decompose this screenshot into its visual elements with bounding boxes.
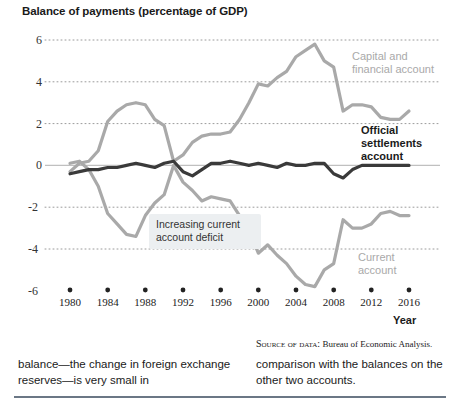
series-label-line: financial account <box>352 63 434 76</box>
x-tick-dot <box>331 288 336 293</box>
x-tick-dot <box>68 288 73 293</box>
plot-area: 6 4 2 0 -2 -4 -6 <box>0 24 460 314</box>
series-label-line: Capital and <box>352 50 434 63</box>
x-tick-dot <box>218 288 223 293</box>
x-tick-dot <box>143 288 148 293</box>
series-label-line: account <box>361 150 422 163</box>
series-label-line: account <box>358 264 397 277</box>
source-text: Bureau of Economic Analysis. <box>322 339 432 349</box>
annotation-increasing-current-account-deficit: Increasing current account deficit <box>149 214 261 249</box>
series-label-line: Official <box>361 124 422 137</box>
x-axis-title: Year <box>393 314 416 326</box>
footer-left-column: balance—the change in foreign exchange r… <box>18 356 233 388</box>
balance-of-payments-figure: Balance of payments (percentage of GDP) … <box>0 0 460 404</box>
series-label-line: Current <box>358 251 397 264</box>
footer-divider-rule <box>14 396 446 398</box>
source-prefix: Source of data: <box>256 338 320 349</box>
x-tick-dot <box>181 288 186 293</box>
x-tick-dot <box>105 288 110 293</box>
series-label-capital-and-financial-account: Capital and financial account <box>352 50 434 76</box>
x-axis-ticks <box>68 288 412 293</box>
x-tick-dot <box>407 288 412 293</box>
source-of-data-note: Source of data: Bureau of Economic Analy… <box>256 338 432 349</box>
series-label-official-settlements-account: Official settlements account <box>361 124 422 163</box>
footer-right-column: comparison with the balances on the othe… <box>256 356 452 388</box>
x-tick-dot <box>294 288 299 293</box>
xtick-label-2016: 2016 <box>387 296 431 308</box>
x-tick-dot <box>256 288 261 293</box>
series-label-line: settlements <box>361 137 422 150</box>
series-label-current-account: Current account <box>358 251 397 277</box>
x-tick-dot <box>369 288 374 293</box>
series-line-official-settlements-account <box>70 161 409 178</box>
chart-title: Balance of payments (percentage of GDP) <box>22 5 248 17</box>
